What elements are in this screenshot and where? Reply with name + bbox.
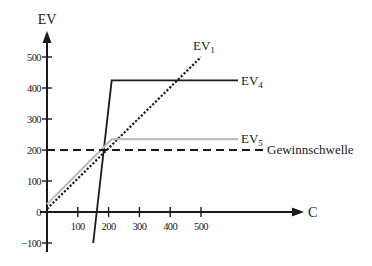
y-tick-label: 200 [27, 145, 41, 156]
y-tick-label: 300 [27, 114, 41, 125]
x-tick-label: 300 [132, 221, 146, 232]
series-ev4-line [93, 80, 238, 243]
x-axis-arrow-icon [292, 208, 304, 217]
y-tick-label: 400 [27, 83, 41, 94]
series-layer [47, 57, 265, 243]
series-label-ev5: EV5 [241, 131, 263, 148]
y-tick-label: −100 [22, 238, 42, 249]
y-tick-label: 100 [27, 176, 41, 187]
series-label-gewinnschwelle: Gewinnschwelle [267, 142, 354, 157]
x-axis-label: C [308, 205, 317, 220]
series-label-ev1: EV1 [193, 38, 215, 55]
y-axis-arrow-icon [43, 31, 52, 43]
x-tick-label: 400 [163, 221, 177, 232]
y-tick-label: 0 [36, 207, 41, 218]
x-tick-label: 200 [102, 221, 116, 232]
x-ticks: 100200300400500 [71, 207, 209, 232]
x-tick-label: 500 [194, 221, 208, 232]
y-tick-label: 500 [27, 52, 41, 63]
series-label-ev4: EV4 [241, 73, 263, 90]
y-axis-label: EV [38, 12, 57, 27]
chart: EV C 100200300400500 −100010020030040050… [0, 0, 372, 266]
x-tick-label: 100 [71, 221, 85, 232]
axes: EV C [38, 12, 318, 252]
series-ev5-line [47, 139, 238, 204]
